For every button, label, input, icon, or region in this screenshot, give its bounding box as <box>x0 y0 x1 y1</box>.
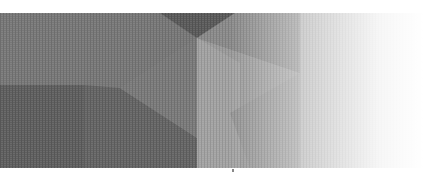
small-dot-mark <box>232 169 234 172</box>
geometric-banner <box>0 13 423 168</box>
white-fade-gradient <box>0 13 423 168</box>
